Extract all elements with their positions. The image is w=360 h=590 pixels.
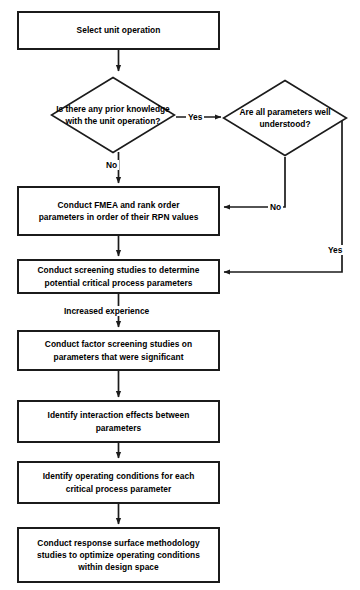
node-parameters-understood-text: Are all parameters well understood? (222, 106, 348, 130)
operating-line-1: Identify operating conditions for each (43, 470, 195, 482)
node-operating-conditions[interactable]: Identify operating conditions for each c… (17, 461, 220, 504)
parameters-understood-line-1: Are all parameters (239, 107, 312, 117)
fmea-line-1: Conduct FMEA and rank order (39, 199, 199, 211)
factor-screening-line-2: parameters that were significant (45, 351, 192, 363)
fmea-line-2: parameters in order of their RPN values (39, 211, 199, 223)
node-response-surface[interactable]: Conduct response surface methodology stu… (17, 527, 220, 583)
node-response-surface-text: Conduct response surface methodology stu… (37, 537, 200, 574)
node-factor-screening-text: Conduct factor screening studies on para… (45, 338, 192, 362)
node-operating-conditions-text: Identify operating conditions for each c… (43, 470, 195, 494)
node-factor-screening[interactable]: Conduct factor screening studies on para… (17, 330, 220, 371)
edge-label-prior-knowledge-yes: Yes (186, 112, 204, 122)
response-surface-line-2: studies to optimize operating conditions (37, 549, 200, 561)
screening-line-2: potential critical process parameters (38, 277, 200, 289)
edge-label-parameters-no: No (268, 202, 283, 212)
screening-line-1: Conduct screening studies to determine (38, 264, 200, 276)
prior-knowledge-line-1: Is there any prior (56, 104, 124, 114)
response-surface-line-3: within design space (37, 561, 200, 573)
edge-label-parameters-yes: Yes (326, 245, 344, 255)
flowchart-diagram: Select unit operation Is there any prior… (0, 0, 360, 590)
node-prior-knowledge-decision[interactable]: Is there any prior knowledge with the un… (50, 76, 176, 154)
node-parameters-understood-decision[interactable]: Are all parameters well understood? (222, 79, 348, 157)
edge-parameters-no-to-fmea (224, 157, 285, 207)
node-prior-knowledge-text: Is there any prior knowledge with the un… (50, 103, 176, 127)
response-surface-line-1: Conduct response surface methodology (37, 537, 200, 549)
interaction-line-1: Identify interaction effects between (48, 409, 190, 421)
edge-label-prior-knowledge-no: No (104, 160, 119, 170)
node-interaction-effects-text: Identify interaction effects between par… (48, 409, 190, 433)
factor-screening-line-1: Conduct factor screening studies on (45, 338, 192, 350)
interaction-line-2: parameters (48, 422, 190, 434)
node-fmea[interactable]: Conduct FMEA and rank order parameters i… (17, 186, 220, 236)
node-fmea-text: Conduct FMEA and rank order parameters i… (39, 199, 199, 223)
node-screening-studies[interactable]: Conduct screening studies to determine p… (17, 259, 220, 294)
prior-knowledge-line-3: operation? (117, 116, 160, 126)
node-interaction-effects[interactable]: Identify interaction effects between par… (17, 400, 220, 443)
node-select-unit-operation-label: Select unit operation (25, 24, 212, 36)
node-select-unit-operation[interactable]: Select unit operation (17, 11, 220, 50)
node-screening-studies-text: Conduct screening studies to determine p… (38, 264, 200, 288)
operating-line-2: critical process parameter (43, 483, 195, 495)
edge-label-increased-experience: Increased experience (62, 306, 151, 316)
